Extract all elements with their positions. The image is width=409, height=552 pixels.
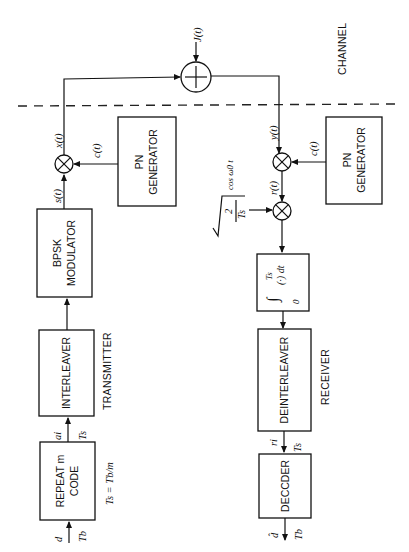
rx-pn-generator-line1: PN <box>341 153 353 168</box>
ts-rx-label: Ts <box>292 443 303 452</box>
carrier-denominator: Ts <box>236 210 247 219</box>
bpsk-modulator-line2: MODULATOR <box>65 220 77 287</box>
carrier-cos-term: cos ω0 t <box>225 160 235 190</box>
repeat-code-line2: CODE <box>68 466 80 496</box>
spread-spectrum-block-diagram: CHANNEL J(t) x(t) PN GENERATOR c(t) BPSK… <box>0 0 409 552</box>
ts-relation-label: Ts = Tb/m <box>104 462 115 505</box>
integral-body: (·) dt <box>275 265 287 285</box>
integral-upper-limit: Ts <box>264 272 274 280</box>
carrier-numerator: 2 <box>223 208 234 214</box>
channel-label: CHANNEL <box>336 23 348 75</box>
tb-in-label: Tb <box>77 531 88 542</box>
rx-despread-multiplier-symbol <box>273 153 291 171</box>
c-t-tx-label: c(t) <box>91 143 103 158</box>
integral-lower-limit: 0 <box>291 299 301 304</box>
ts-tx-label: Ts <box>77 431 88 440</box>
rx-pn-generator-block <box>326 117 382 204</box>
ai-label: ai <box>52 432 63 440</box>
repeat-code-line1: REPEAT m <box>54 454 66 507</box>
bpsk-modulator-line1: BPSK <box>51 239 63 267</box>
tx-multiplier-symbol <box>55 155 73 173</box>
tx-pn-generator-line1: PN <box>133 155 145 170</box>
rx-demod-multiplier-symbol <box>273 202 291 220</box>
d-hat-label: d̂ <box>268 532 280 538</box>
rx-pn-generator-line2: GENERATOR <box>355 127 367 193</box>
x-t-label: x(t) <box>53 133 65 149</box>
s-t-label: s(t) <box>52 189 64 204</box>
decoder-label: DECCDER <box>279 460 291 512</box>
c-t-rx-label: c(t) <box>308 141 320 156</box>
jammer-label: J(t) <box>192 27 204 42</box>
y-t-label: y(t) <box>268 125 280 141</box>
r-t-label: r(t) <box>268 181 280 196</box>
received-signal-path <box>211 76 279 153</box>
carrier-reference-label: 2 Ts cos ω0 t <box>213 160 247 236</box>
channel-boundary-dashed-line <box>18 104 396 106</box>
adder-symbol <box>181 62 211 92</box>
interleaver-label: INTERLEAVER <box>60 337 72 410</box>
d-label: d <box>53 536 64 542</box>
tb-out-label: Tb <box>293 529 304 540</box>
transmitter-label: TRANSMITTER <box>101 332 113 410</box>
tx-pn-generator-line2: GENERATOR <box>147 129 159 195</box>
deinterleaver-label: DEINTERLEAVER <box>278 336 290 423</box>
ri-label: ri <box>268 439 279 446</box>
receiver-label: RECEIVER <box>319 349 331 405</box>
